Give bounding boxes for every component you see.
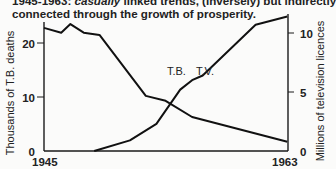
- x-tick-label-start: 1945: [32, 156, 58, 168]
- axes: 01020051019451963Thousands of T.B. death…: [4, 14, 326, 168]
- left-y-axis-title: Thousands of T.B. deaths: [4, 30, 16, 155]
- labels: T.B.T.V.: [167, 65, 214, 77]
- x-tick-label-end: 1963: [272, 156, 298, 168]
- series-lines: [44, 17, 287, 152]
- series-label-tb: T.B.: [167, 65, 186, 77]
- series-line-tv: [94, 17, 287, 152]
- right-y-tick-label: 10: [300, 28, 313, 40]
- left-y-tick-label: 10: [22, 92, 35, 104]
- right-y-tick-label: 5: [300, 87, 307, 99]
- series-line-tb: [44, 24, 287, 142]
- right-y-axis-title: Millions of television licences: [314, 20, 326, 161]
- series-label-tv: T.V.: [196, 65, 214, 77]
- left-y-tick-label: 20: [22, 38, 35, 50]
- right-y-tick-label: 0: [300, 146, 306, 158]
